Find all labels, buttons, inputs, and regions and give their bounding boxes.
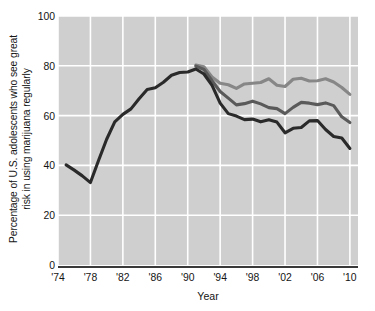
y-tick-label: 20 [29, 210, 55, 221]
y-tick-label: 40 [29, 160, 55, 171]
series-line [196, 66, 350, 123]
y-tick-label: 100 [29, 11, 55, 22]
chart-figure: Percentage of U.S. adolescents who see g… [0, 0, 375, 311]
x-tick-label: '98 [238, 272, 268, 283]
x-tick-label: '06 [302, 272, 332, 283]
plot-area [58, 16, 358, 265]
plot-svg [58, 16, 358, 265]
y-tick-label: 60 [29, 110, 55, 121]
y-axis-label: Percentage of U.S. adolescents who see g… [0, 0, 40, 285]
x-tick-label: '10 [335, 272, 365, 283]
x-tick-label: '94 [205, 272, 235, 283]
x-tick-label: '74 [43, 272, 73, 283]
x-axis-label: Year [58, 290, 358, 302]
x-tick-label: '82 [108, 272, 138, 283]
y-tick-label: 80 [29, 60, 55, 71]
x-axis-line [58, 266, 358, 268]
x-tick-label: '78 [75, 272, 105, 283]
x-tick-label: '02 [270, 272, 300, 283]
y-tick-label: 0 [29, 260, 55, 271]
y-axis-label-line-2: risk in using marijuana regularly [20, 68, 33, 210]
y-axis-label-line-1: Percentage of U.S. adolescents who see g… [7, 35, 20, 243]
x-tick-label: '86 [140, 272, 170, 283]
x-tick-label: '90 [173, 272, 203, 283]
